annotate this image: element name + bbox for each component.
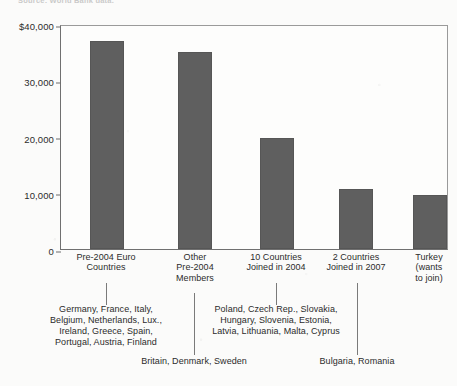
x-label-line-1: Other	[153, 252, 237, 262]
y-axis-tick-20000: 20,000	[24, 133, 61, 144]
bar-other-pre-2004-members	[178, 52, 212, 249]
note-line-1: Germany, France, Italy,	[18, 304, 194, 315]
note-line-1: Britain, Denmark, Sweden	[118, 356, 270, 367]
x-label-line-2: Pre-2004	[153, 262, 237, 272]
y-axis-tick-10000: 10,000	[24, 189, 61, 200]
x-label-line-3: Members	[153, 273, 237, 283]
y-axis-tick-40000: $40,000	[19, 21, 61, 32]
leader-line-other-pre-2004	[194, 293, 195, 355]
note-line-2: Belgium, Netherlands, Lux.,	[18, 315, 194, 326]
note-joined-2007: Bulgaria, Romania	[288, 356, 426, 367]
x-label-turkey: Turkey (wants to join)	[393, 252, 457, 283]
x-label-line-2: (wants	[393, 262, 457, 272]
note-line-1: Bulgaria, Romania	[288, 356, 426, 367]
bars-layer	[61, 26, 447, 249]
bar-2-countries-joined-2007	[339, 189, 373, 249]
bar-pre-2004-euro-countries	[90, 41, 124, 249]
note-joined-2004: Poland, Czech Rep., Slovakia, Hungary, S…	[196, 304, 356, 337]
x-label-line-3: to join)	[393, 273, 457, 283]
note-line-1: Poland, Czech Rep., Slovakia,	[196, 304, 356, 315]
y-axis-tick-30000: 30,000	[24, 77, 61, 88]
x-label-line-1: Pre-2004 Euro	[54, 252, 158, 262]
leader-line-joined-2007	[357, 283, 358, 355]
x-label-other-pre-2004-members: Other Pre-2004 Members	[153, 252, 237, 283]
note-line-4: Portugal, Austria, Finland	[18, 337, 194, 348]
source-note: Source: World Bank data.	[18, 0, 114, 4]
note-euro-countries: Germany, France, Italy, Belgium, Netherl…	[18, 304, 194, 348]
x-label-2-countries-joined-2007: 2 Countries Joined in 2007	[306, 252, 406, 273]
x-label-pre-2004-euro-countries: Pre-2004 Euro Countries	[54, 252, 158, 273]
chart-plot-area: GDP per capita (2005) $40,000 30,000 20,…	[60, 25, 448, 250]
note-line-2: Hungary, Slovenia, Estonia,	[196, 315, 356, 326]
note-line-3: Latvia, Lithuania, Malta, Cyprus	[196, 326, 356, 337]
x-axis-category-labels: Pre-2004 Euro Countries Other Pre-2004 M…	[60, 252, 448, 292]
x-label-line-2: Countries	[54, 262, 158, 272]
leader-line-euro-countries	[106, 283, 107, 305]
note-line-3: Ireland, Greece, Spain,	[18, 326, 194, 337]
leader-line-joined-2004	[276, 283, 277, 305]
bar-turkey	[413, 195, 447, 249]
bar-10-countries-joined-2004	[260, 138, 294, 249]
x-label-line-2: Joined in 2007	[306, 262, 406, 272]
x-label-line-1: Turkey	[393, 252, 457, 262]
note-other-pre-2004: Britain, Denmark, Sweden	[118, 356, 270, 367]
x-label-line-1: 2 Countries	[306, 252, 406, 262]
